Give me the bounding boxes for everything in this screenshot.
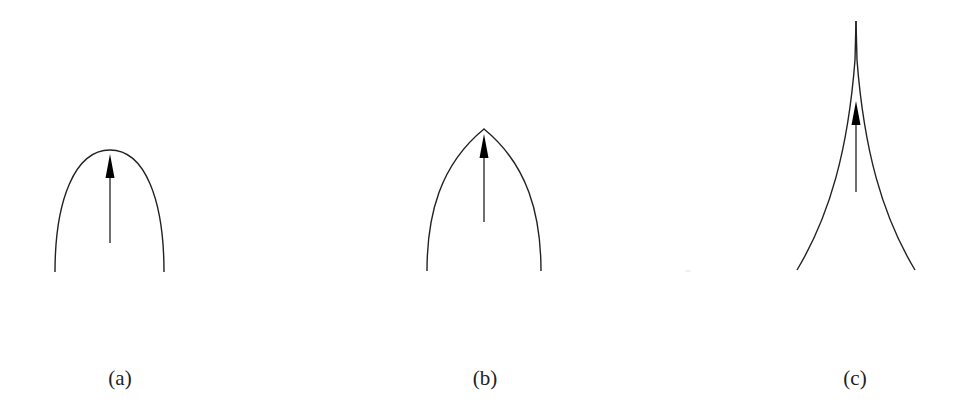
arrowhead-b — [480, 134, 489, 158]
panel-label-a: (a) — [108, 366, 131, 391]
panel-a — [55, 150, 164, 272]
panel-b — [427, 129, 541, 271]
arrowhead-a — [106, 154, 115, 178]
panel-c — [797, 21, 915, 270]
arrowhead-c — [852, 101, 861, 125]
needle-front-left-curve — [797, 21, 856, 270]
panel-label-c: (c) — [843, 366, 866, 391]
artifact-speck — [685, 270, 691, 272]
panel-label-b: (b) — [473, 366, 498, 391]
needle-front-right-curve — [856, 21, 915, 270]
diagram-canvas — [0, 0, 960, 418]
